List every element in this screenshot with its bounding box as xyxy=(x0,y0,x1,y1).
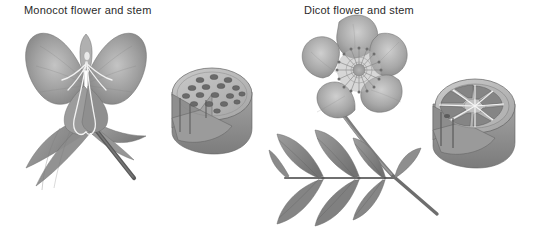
dicot-panel: Dicot flower and stem xyxy=(267,0,533,232)
dicot-compound-leaf xyxy=(269,130,421,226)
monocot-panel: Monocot flower and stem xyxy=(0,0,267,232)
dicot-flower xyxy=(302,15,407,118)
dicot-panel-label: Dicot flower and stem xyxy=(304,4,414,16)
monocot-panel-label: Monocot flower and stem xyxy=(24,4,152,16)
monocot-stem-cross-section xyxy=(172,68,252,154)
monocot-flower xyxy=(26,33,147,134)
monocot-illustration xyxy=(0,0,267,232)
dicot-stem-cross-section xyxy=(433,79,515,168)
dicot-illustration xyxy=(267,0,533,232)
botany-comparison-figure: Monocot flower and stem xyxy=(0,0,533,232)
